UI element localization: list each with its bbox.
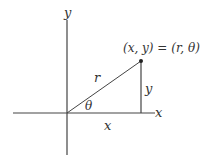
y-axis-label: y (63, 5, 72, 20)
horizontal-leg-label: x (104, 118, 112, 133)
point-label: (x, y) = (r, θ) (123, 41, 200, 55)
radius-label: r (94, 70, 101, 85)
angle-label: θ (85, 99, 93, 113)
radius-line (67, 61, 141, 113)
point-marker (139, 59, 143, 63)
coordinate-diagram: y x (x, y) = (r, θ) r θ y x (0, 0, 205, 163)
x-axis-label: x (155, 105, 163, 120)
vertical-leg-label: y (144, 81, 153, 96)
